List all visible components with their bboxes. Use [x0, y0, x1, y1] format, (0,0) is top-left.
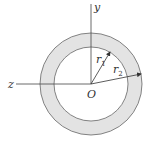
- z-axis-label: z: [7, 78, 14, 91]
- r1-label: r1: [96, 53, 106, 68]
- r2-label: r2: [113, 63, 123, 78]
- annulus-diagram: y z O r1 r2: [0, 0, 155, 150]
- origin-label: O: [87, 88, 96, 101]
- y-axis-label: y: [93, 1, 101, 14]
